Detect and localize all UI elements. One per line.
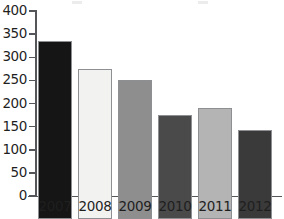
x-axis-label-2010: 2010 <box>153 199 197 213</box>
x-axis-label-2009: 2009 <box>113 199 157 213</box>
x-axis-label-2011: 2011 <box>193 199 237 213</box>
cropped-top-artifact-right <box>198 1 208 4</box>
bar-2007[interactable] <box>38 41 72 219</box>
y-tick-label-400: 400 <box>0 4 36 18</box>
x-axis-label-2012: 2012 <box>233 199 277 213</box>
bar-chart: 050100150200250300350400 200720082009201… <box>0 0 284 219</box>
bar-2008[interactable] <box>78 69 112 219</box>
bars-group <box>0 33 284 219</box>
x-axis-label-2007: 2007 <box>33 199 77 213</box>
x-axis-label-2008: 2008 <box>73 199 117 213</box>
cropped-top-artifact-left <box>72 1 82 4</box>
